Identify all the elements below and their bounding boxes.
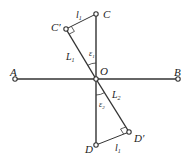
label-O: O [100, 65, 108, 77]
label-B: B [174, 66, 181, 78]
right-angle-marker-d-prime [121, 127, 126, 134]
label-D-prime: D′ [133, 132, 145, 144]
angle-arc-eps1 [88, 63, 96, 65]
label-eps2: ε2 [99, 100, 105, 110]
joint-D-prime [127, 130, 131, 134]
label-L2: L2 [111, 89, 121, 101]
label-eps1: ε1 [89, 49, 95, 59]
joint-O [94, 77, 98, 81]
label-C: C [103, 8, 111, 20]
mechanism-diagram: A B O C C′ D D′ l1 L1 L2 l1 ε1 ε2 [0, 0, 189, 160]
label-l1-top: l1 [76, 9, 82, 21]
label-l1-bottom: l1 [115, 142, 121, 154]
label-C-prime: C′ [51, 21, 61, 33]
label-L1: L1 [65, 51, 75, 63]
joint-C-prime [64, 27, 68, 31]
joint-C [94, 12, 98, 16]
label-D: D [84, 143, 93, 155]
label-A: A [9, 66, 17, 78]
joint-D [94, 143, 98, 147]
line-D-D-prime [96, 132, 129, 145]
angle-arc-eps2 [96, 93, 105, 95]
